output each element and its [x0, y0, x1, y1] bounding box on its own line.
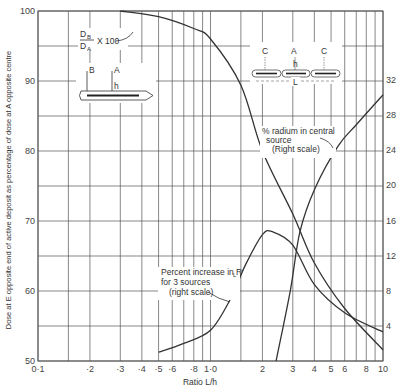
right-y-tick-label: 12 — [386, 251, 396, 261]
svg-text:h: h — [114, 81, 119, 91]
svg-text:B: B — [89, 65, 95, 75]
right-y-tick-label: 24 — [386, 145, 396, 155]
left-y-tick-label: 100 — [20, 6, 35, 16]
left-y-tick-label: 50 — [25, 356, 35, 366]
svg-text:A: A — [114, 65, 120, 75]
right-y-axis-ticks: 48121620242832 — [386, 75, 396, 331]
svg-text:L: L — [293, 77, 298, 87]
svg-text:Percent increase in R: Percent increase in R — [161, 267, 242, 277]
x-tick-label: 5 — [329, 364, 334, 374]
left-y-tick-label: 60 — [25, 286, 35, 296]
right-y-tick-label: 20 — [386, 180, 396, 190]
radium-annotation: % radium in central source (Right scale) — [260, 126, 336, 158]
x-tick-label: ·4 — [138, 364, 146, 374]
svg-text:B: B — [87, 34, 91, 40]
x-tick-label: ·6 — [168, 364, 176, 374]
left-y-tick-label: 80 — [25, 146, 35, 156]
db-da-annotation: D B D A X 100 — [78, 28, 133, 52]
svg-text:(Right scale): (Right scale) — [272, 144, 320, 154]
svg-text:A: A — [291, 46, 297, 56]
x-tick-label: 1·0 — [204, 364, 217, 374]
x-axis-label: Ratio L/h — [183, 377, 217, 387]
svg-text:for 3 sources: for 3 sources — [161, 277, 210, 287]
right-y-tick-label: 32 — [386, 75, 396, 85]
x-tick-label: 6 — [342, 364, 347, 374]
left-y-axis-label: Dose at E opposite end of active deposit… — [4, 51, 13, 330]
x-axis-ticks: 0·1·2·3·4·5·6·81·023456810 — [31, 364, 388, 374]
svg-text:D: D — [80, 41, 86, 51]
x-tick-label: 4 — [312, 364, 317, 374]
x-tick-label: 3 — [290, 364, 295, 374]
x-tick-label: ·5 — [155, 364, 163, 374]
left-y-tick-label: 70 — [25, 216, 35, 226]
right-y-tick-label: 16 — [386, 216, 396, 226]
percent-increase-annotation: Percent increase in R L for 3 sources (r… — [158, 267, 242, 302]
x-tick-label: 10 — [378, 364, 388, 374]
right-y-tick-label: 28 — [386, 110, 396, 120]
single-source-diagram: B A h — [76, 63, 156, 103]
x-tick-label: ·8 — [190, 364, 198, 374]
x-tick-label: 2 — [260, 364, 265, 374]
x-tick-label: ·3 — [116, 364, 124, 374]
svg-text:C: C — [262, 46, 268, 56]
right-y-tick-label: 8 — [386, 286, 391, 296]
left-y-axis-ticks: 5060708090100 — [20, 6, 35, 366]
svg-text:D: D — [80, 29, 86, 39]
svg-text:C: C — [321, 46, 327, 56]
three-source-diagram: C A h C L — [250, 42, 342, 87]
svg-text:h: h — [293, 59, 298, 69]
x-tick-label: ·2 — [86, 364, 94, 374]
x-tick-label: 8 — [364, 364, 369, 374]
chart: 0·1·2·3·4·5·6·81·023456810 5060708090100… — [0, 0, 400, 391]
right-y-tick-label: 4 — [386, 321, 391, 331]
left-y-tick-label: 90 — [25, 76, 35, 86]
svg-text:A: A — [87, 46, 91, 52]
svg-text:(right scale): (right scale) — [169, 287, 214, 297]
